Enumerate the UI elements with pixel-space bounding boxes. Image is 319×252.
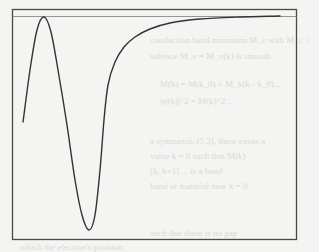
plot-frame (13, 10, 297, 240)
data-curve (23, 16, 280, 230)
